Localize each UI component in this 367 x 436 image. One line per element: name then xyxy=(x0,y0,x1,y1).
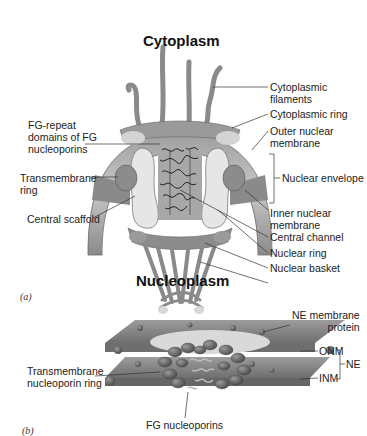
label-inner-nuclear-membrane: Inner nuclear membrane xyxy=(270,207,331,231)
panel-label-a: (a) xyxy=(20,291,32,302)
cytoplasmic-filaments xyxy=(128,47,220,128)
label-cytoplasmic-filaments: Cytoplasmic filaments xyxy=(270,81,327,105)
panel-label-b: (b) xyxy=(22,425,34,436)
label-nuclear-basket: Nuclear basket xyxy=(270,262,340,274)
label-ne: NE xyxy=(346,358,361,370)
label-nuclear-envelope: Nuclear envelope xyxy=(282,172,364,184)
transmembrane-ring-right xyxy=(223,165,245,191)
label-cytoplasmic-ring: Cytoplasmic ring xyxy=(270,108,348,120)
label-transmembrane-nucleoporin-ring: Transmembrane nucleoporin ring xyxy=(27,365,104,389)
label-central-scaffold: Central scaffold xyxy=(27,213,100,225)
label-fg-repeat-domains: FG-repeat domains of FG nucleoporins xyxy=(28,119,97,155)
central-scaffold-left xyxy=(131,148,159,228)
label-central-channel: Central channel xyxy=(270,231,344,243)
label-ne-membrane-protein: NE membrane protein xyxy=(292,309,360,333)
label-nuclear-ring: Nuclear ring xyxy=(270,247,327,259)
nucleoplasm-title: Nucleoplasm xyxy=(136,272,229,289)
label-onm: ONM xyxy=(319,345,344,357)
central-channel-fg-repeats xyxy=(158,145,202,220)
label-inm: INM xyxy=(319,372,338,384)
label-fg-nucleoporins: FG nucleoporins xyxy=(146,419,223,431)
cytoplasm-title: Cytoplasm xyxy=(143,32,220,49)
transmembrane-ring-left xyxy=(115,165,137,191)
label-outer-nuclear-membrane: Outer nuclear membrane xyxy=(270,125,334,149)
label-transmembrane-ring: Transmembrane ring xyxy=(20,172,97,196)
